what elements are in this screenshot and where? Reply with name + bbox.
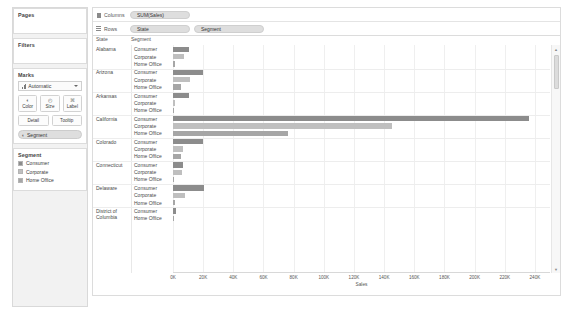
rows-pill-state[interactable]: State xyxy=(130,25,190,33)
legend-swatch-icon xyxy=(18,161,23,166)
marks-color-button[interactable]: ◐ Color xyxy=(18,95,37,112)
x-axis-tick-label: 160K xyxy=(409,275,420,280)
marks-label-button[interactable]: ⌘ Label xyxy=(63,95,82,112)
state-row-label[interactable]: Arizona xyxy=(96,69,130,75)
segment-row-label[interactable]: Corporate xyxy=(134,169,156,175)
gridline xyxy=(203,45,204,273)
segment-row-label[interactable]: Corporate xyxy=(134,77,156,83)
marks-button-row-primary: ◐ Color ◴ Size ⌘ Label xyxy=(14,95,86,112)
bar-mark[interactable] xyxy=(173,208,176,213)
columns-icon xyxy=(96,12,102,18)
columns-shelf[interactable]: Columns SUM(Sales) xyxy=(93,8,560,22)
bar-mark[interactable] xyxy=(173,47,189,52)
bar-mark[interactable] xyxy=(173,131,288,136)
bar-mark[interactable] xyxy=(173,154,181,159)
legend-swatch-icon xyxy=(18,178,23,183)
legend-title: Segment xyxy=(14,149,86,160)
bar-mark[interactable] xyxy=(173,185,204,190)
header-state: State xyxy=(93,36,131,45)
bar-mark[interactable] xyxy=(173,193,185,198)
bar-mark[interactable] xyxy=(173,70,203,75)
row-separator xyxy=(173,207,550,208)
bar-mark[interactable] xyxy=(173,162,183,167)
segment-row-label[interactable]: Corporate xyxy=(134,123,156,129)
state-row-label[interactable]: Alabama xyxy=(96,46,130,52)
legend-item-consumer[interactable]: Consumer xyxy=(14,160,86,166)
mark-type-dropdown[interactable]: Automatic xyxy=(18,81,82,91)
x-axis-tick-label: 220K xyxy=(499,275,510,280)
bar-mark[interactable] xyxy=(173,177,174,182)
x-axis-tick-label: 80K xyxy=(290,275,298,280)
bar-mark[interactable] xyxy=(173,200,175,205)
segment-row-label[interactable]: Home Office xyxy=(134,200,162,206)
bar-mark[interactable] xyxy=(173,61,175,66)
state-row-label[interactable]: Delaware xyxy=(96,185,130,191)
segment-row-label[interactable]: Home Office xyxy=(134,130,162,136)
segment-row-label[interactable]: Consumer xyxy=(134,93,157,99)
state-row-label[interactable]: California xyxy=(96,116,130,122)
row-separator xyxy=(173,138,550,139)
legend-item-corporate[interactable]: Corporate xyxy=(14,169,86,175)
bar-mark[interactable] xyxy=(173,170,182,175)
x-axis-tick-label: 240K xyxy=(530,275,541,280)
segment-row-label[interactable]: Corporate xyxy=(134,54,156,60)
x-axis-tick-label: 40K xyxy=(229,275,237,280)
pages-card-title: Pages xyxy=(14,9,86,20)
bar-mark[interactable] xyxy=(173,146,183,151)
state-row-label[interactable]: Colorado xyxy=(96,139,130,145)
bar-mark[interactable] xyxy=(173,100,175,105)
state-row-label[interactable]: Arkansas xyxy=(96,93,130,99)
bar-mark[interactable] xyxy=(173,139,203,144)
vertical-scrollbar[interactable]: ▲ ▼ xyxy=(551,45,560,273)
legend-item-home-office[interactable]: Home Office xyxy=(14,177,86,183)
segment-row-label[interactable]: Corporate xyxy=(134,192,156,198)
marks-size-button[interactable]: ◴ Size xyxy=(40,95,59,112)
bar-mark[interactable] xyxy=(173,93,189,98)
segment-row-label[interactable]: Consumer xyxy=(134,139,157,145)
columns-pill-sum-sales[interactable]: SUM(Sales) xyxy=(130,11,190,19)
scroll-down-icon[interactable]: ▼ xyxy=(552,265,560,273)
bar-mark[interactable] xyxy=(173,84,181,89)
gridline xyxy=(414,45,415,273)
segment-row-label[interactable]: Home Office xyxy=(134,84,162,90)
gridline xyxy=(384,45,385,273)
gridline xyxy=(263,45,264,273)
scroll-up-icon[interactable]: ▲ xyxy=(552,45,560,53)
bar-mark[interactable] xyxy=(173,54,184,59)
state-row-label[interactable]: District of Columbia xyxy=(96,208,130,220)
bar-mark[interactable] xyxy=(173,216,174,221)
segment-row-label[interactable]: Home Office xyxy=(134,215,162,221)
marks-label-label: Label xyxy=(67,104,78,109)
segment-row-label[interactable]: Home Office xyxy=(134,107,162,113)
segment-row-label[interactable]: Consumer xyxy=(134,69,157,75)
marks-detail-button[interactable]: Detail xyxy=(18,115,49,126)
rows-shelf[interactable]: Rows State Segment xyxy=(93,22,560,36)
bar-mark[interactable] xyxy=(173,77,190,82)
segment-row-label[interactable]: Consumer xyxy=(134,185,157,191)
segment-row-label[interactable]: Home Office xyxy=(134,176,162,182)
x-axis-tick-label: 200K xyxy=(469,275,480,280)
segment-row-label[interactable]: Home Office xyxy=(134,153,162,159)
segment-row-label[interactable]: Consumer xyxy=(134,116,157,122)
segment-row-label[interactable]: Corporate xyxy=(134,146,156,152)
segment-row-label[interactable]: Consumer xyxy=(134,46,157,52)
x-axis-tick-label: 100K xyxy=(318,275,329,280)
segment-row-label[interactable]: Home Office xyxy=(134,61,162,67)
bar-mark[interactable] xyxy=(173,123,392,128)
segment-row-label[interactable]: Consumer xyxy=(134,208,157,214)
gridline xyxy=(294,45,295,273)
state-row-label[interactable]: Connecticut xyxy=(96,162,130,168)
rows-pill-segment[interactable]: Segment xyxy=(194,25,264,33)
legend-item-label: Corporate xyxy=(26,169,48,175)
legend-item-label: Consumer xyxy=(26,160,49,166)
marks-tooltip-button[interactable]: Tooltip xyxy=(52,115,83,126)
mark-type-value: Automatic xyxy=(28,83,51,89)
segment-row-label[interactable]: Corporate xyxy=(134,100,156,106)
bar-mark[interactable] xyxy=(173,108,174,113)
scrollbar-thumb[interactable] xyxy=(554,55,559,89)
segment-row-label[interactable]: Consumer xyxy=(134,162,157,168)
bar-mark[interactable] xyxy=(173,116,529,121)
label-icon: ⌘ xyxy=(70,98,75,103)
marks-segment-pill[interactable]: ◐ Segment xyxy=(18,130,82,139)
filters-card-title: Filters xyxy=(14,39,86,50)
